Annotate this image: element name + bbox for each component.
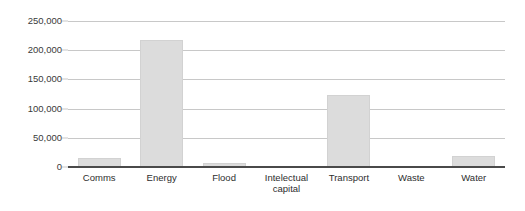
bar-slot-energy bbox=[130, 21, 192, 167]
bars-layer bbox=[68, 21, 505, 167]
x-axis-label-waste: Waste bbox=[380, 172, 442, 194]
bar-slot-waste bbox=[380, 21, 442, 167]
bar-slot-water bbox=[443, 21, 505, 167]
bar-chart: 250,000 200,000 150,000 100,000 50,000 0 bbox=[0, 0, 525, 211]
x-axis-label-water: Water bbox=[443, 172, 505, 194]
x-axis-label-intelectual-capital: Intelectual capital bbox=[255, 172, 317, 194]
y-axis-tick-label: 100,000 bbox=[28, 104, 62, 114]
x-axis-label-flood: Flood bbox=[193, 172, 255, 194]
y-axis-tick-label: 50,000 bbox=[33, 133, 62, 143]
bar-slot-intelectual-capital bbox=[255, 21, 317, 167]
bar-slot-comms bbox=[68, 21, 130, 167]
x-axis-baseline bbox=[68, 166, 505, 168]
y-axis-tick-label: 200,000 bbox=[28, 45, 62, 55]
bar-slot-transport bbox=[318, 21, 380, 167]
y-axis-tick-label: 250,000 bbox=[28, 16, 62, 26]
y-axis-tick-label: 0 bbox=[57, 162, 62, 172]
plot-area: 250,000 200,000 150,000 100,000 50,000 0 bbox=[68, 21, 505, 167]
x-axis-label-transport: Transport bbox=[318, 172, 380, 194]
x-axis-labels: Comms Energy Flood Intelectual capital T… bbox=[68, 172, 505, 194]
bar-transport[interactable] bbox=[327, 95, 370, 167]
x-axis-label-energy: Energy bbox=[130, 172, 192, 194]
bar-energy[interactable] bbox=[140, 40, 183, 167]
y-axis-tick-label: 150,000 bbox=[28, 75, 62, 85]
bar-slot-flood bbox=[193, 21, 255, 167]
x-axis-label-comms: Comms bbox=[68, 172, 130, 194]
